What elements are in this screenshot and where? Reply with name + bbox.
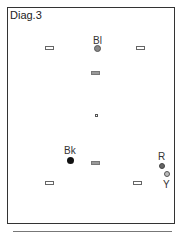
- cushion-spot-bottom-left: [45, 181, 54, 185]
- center-spot: [95, 114, 98, 117]
- cushion-spot-top-right: [136, 46, 145, 50]
- cushion-spot-top-left: [45, 46, 54, 50]
- diagram-frame: [7, 7, 175, 224]
- spot-lower-middle: [91, 161, 100, 165]
- blue-ball: [94, 45, 101, 52]
- spot-upper-middle: [91, 71, 100, 75]
- label-red: R: [158, 151, 165, 162]
- label-black: Bk: [64, 145, 76, 156]
- diagram-title: Diag.3: [10, 9, 42, 21]
- black-ball: [67, 157, 74, 164]
- divider-line: [13, 231, 172, 232]
- yellow-ball: [164, 171, 170, 177]
- cushion-spot-bottom-right: [133, 181, 142, 185]
- label-yellow: Y: [163, 179, 170, 190]
- red-ball: [159, 163, 165, 169]
